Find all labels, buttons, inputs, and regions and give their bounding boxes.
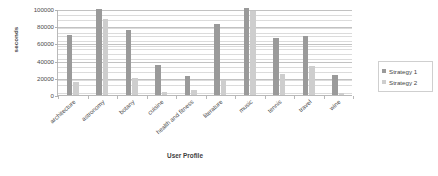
bar-strategy-1 — [155, 65, 161, 96]
y-axis-tick-mark — [55, 27, 58, 28]
bar-strategy-2 — [132, 78, 138, 96]
bar-group — [244, 10, 256, 96]
bar-strategy-2 — [309, 66, 315, 96]
bar-group — [273, 10, 285, 96]
y-axis-tick-mark — [55, 79, 58, 80]
bar-strategy-1 — [244, 8, 250, 96]
bar-chart: seconds 100000800006000040000200000 arch… — [0, 0, 438, 176]
bar-group — [214, 10, 226, 96]
bar-strategy-1 — [332, 75, 338, 97]
y-axis-tick-labels: 100000800006000040000200000 — [14, 10, 54, 96]
y-axis-tick-label: 0 — [14, 93, 54, 99]
plot-inner — [58, 10, 352, 96]
bar-strategy-2 — [103, 19, 109, 96]
y-axis-tick-label: 60000 — [14, 41, 54, 47]
bar-strategy-1 — [214, 24, 220, 96]
legend: Strategy 1 Strategy 2 — [378, 61, 433, 92]
legend-swatch-icon — [382, 69, 386, 73]
bar-strategy-1 — [273, 38, 279, 96]
bar-strategy-1 — [96, 9, 102, 96]
x-axis-tick-label: architecture — [27, 98, 76, 143]
bar-strategy-2 — [280, 74, 286, 96]
bar-group — [303, 10, 315, 96]
legend-swatch-icon — [382, 80, 386, 84]
y-axis-tick-label: 20000 — [14, 76, 54, 82]
legend-item: Strategy 1 — [382, 66, 429, 76]
x-axis-tick-mark — [353, 96, 354, 99]
y-axis-tick-label: 80000 — [14, 24, 54, 30]
bar-strategy-1 — [126, 30, 132, 96]
bar-strategy-2 — [221, 80, 227, 96]
y-axis-tick-label: 40000 — [14, 59, 54, 65]
y-axis-tick-mark — [55, 44, 58, 45]
legend-item: Strategy 2 — [382, 77, 429, 87]
legend-label: Strategy 2 — [389, 79, 417, 86]
bar-group — [67, 10, 79, 96]
plot-area — [57, 10, 352, 96]
y-axis-tick-mark — [55, 10, 58, 11]
bar-group — [155, 10, 167, 96]
x-axis-title: User Profile — [0, 152, 370, 159]
bar-strategy-1 — [67, 35, 73, 96]
y-axis-tick-label: 100000 — [14, 7, 54, 13]
bar-group — [126, 10, 138, 96]
bar-strategy-2 — [250, 11, 256, 96]
y-axis-tick-mark — [55, 62, 58, 63]
bar-group — [332, 10, 344, 96]
bar-strategy-1 — [185, 76, 191, 96]
bar-strategy-1 — [303, 36, 309, 96]
bar-strategy-2 — [73, 82, 79, 96]
x-axis-tick-labels: architectureastronomybotanycuisinehealth… — [57, 98, 352, 150]
bar-group — [96, 10, 108, 96]
bar-group — [185, 10, 197, 96]
legend-label: Strategy 1 — [389, 68, 417, 75]
